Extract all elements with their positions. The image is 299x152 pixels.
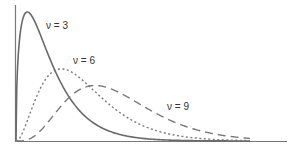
curve-nu-6 bbox=[16, 69, 250, 141]
curve-nu-3 bbox=[16, 12, 250, 141]
curve-nu-9 bbox=[16, 86, 250, 141]
label-nu-9: ν = 9 bbox=[167, 101, 189, 112]
chi-square-chart bbox=[0, 0, 299, 152]
label-nu-3: ν = 3 bbox=[46, 20, 68, 31]
label-nu-6: ν = 6 bbox=[73, 55, 95, 66]
